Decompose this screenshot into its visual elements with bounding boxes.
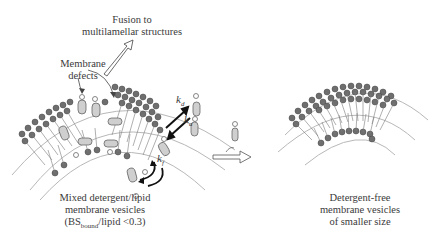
free-line-2: membrane vesicles — [300, 204, 420, 216]
fusion-line-1: Fusion to — [62, 14, 202, 26]
defects-label: Membrane defects — [48, 58, 118, 82]
right-inner-heads — [318, 128, 375, 146]
right-vesicle — [278, 93, 428, 165]
fusion-line-2: multilamellar structures — [62, 26, 202, 38]
process-arrow — [213, 151, 251, 163]
mixed-line-1: Mixed detergent/lipid — [30, 192, 180, 204]
free-vesicles-label: Detergent-free membrane vesicles of smal… — [300, 192, 420, 228]
rate-kf: kf — [157, 152, 164, 167]
free-line-3: of smaller size — [300, 216, 420, 228]
defects-line-2: defects — [48, 70, 118, 82]
mixed-line-3: (BSbound/lipid <0.3) — [30, 216, 180, 232]
free-detergent — [232, 128, 238, 141]
mixed-vesicles-label: Mixed detergent/lipid membrane vesicles … — [30, 192, 180, 232]
fusion-label: Fusion to multilamellar structures — [62, 14, 202, 38]
rate-ka: ka — [184, 113, 192, 128]
mixed-line-2: membrane vesicles — [30, 204, 180, 216]
defects-line-1: Membrane — [48, 58, 118, 70]
rate-kd: kd — [176, 93, 184, 108]
free-line-1: Detergent-free — [300, 192, 420, 204]
left-outer-heads — [19, 84, 163, 144]
